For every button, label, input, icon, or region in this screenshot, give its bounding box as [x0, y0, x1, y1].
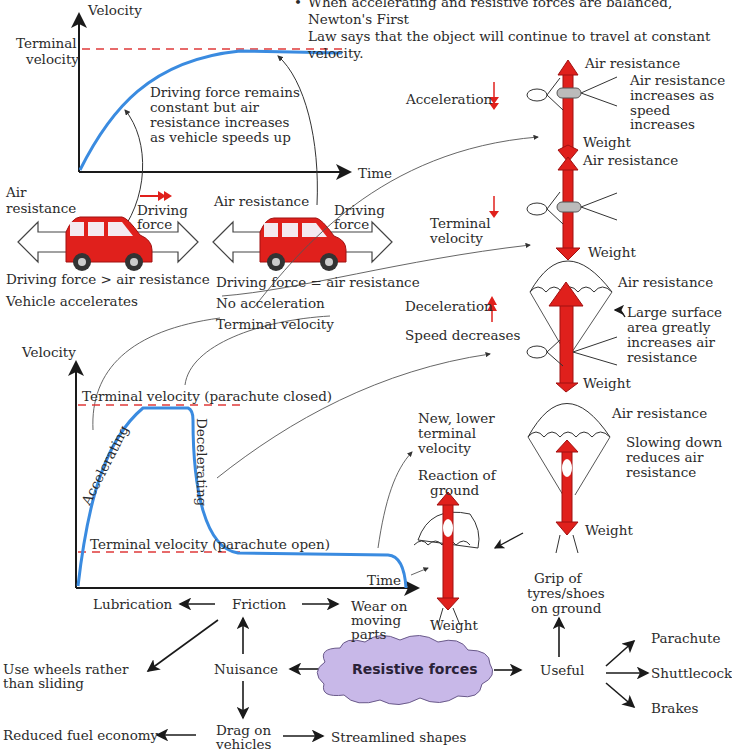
grip-node-line: tyres/shoes	[527, 585, 605, 601]
drag-node-line: vehicles	[216, 736, 271, 751]
reaction-of-ground-2: ground	[430, 482, 479, 498]
stage4-note-line: Slowing down	[626, 434, 722, 450]
stage1-air-resistance: Air resistance	[585, 55, 680, 71]
left-caption-1: Driving force > air resistance	[6, 271, 210, 287]
wheels-node-line: than sliding	[3, 675, 84, 691]
grip-node-line: Grip of	[534, 570, 582, 586]
top-graph-y-label: Velocity	[88, 2, 142, 18]
stage3-note-line: resistance	[627, 349, 697, 365]
stage1-note-line: increases	[630, 116, 695, 132]
terminal-velocity-stage-label-1: Terminal	[430, 215, 491, 231]
skydiver-landed	[414, 492, 479, 625]
stage3-note-line: increases air	[627, 334, 715, 350]
stage4-weight: Weight	[585, 522, 633, 538]
wear-node-line: parts	[351, 626, 387, 642]
right-air-resistance: Air resistance	[214, 193, 309, 209]
resistive-forces-label: Resistive forces	[352, 661, 477, 677]
new-lower-terminal-line: terminal	[418, 425, 476, 441]
stage4-note-line: resistance	[626, 464, 696, 480]
useful-node: Useful	[540, 662, 584, 678]
landed-weight: Weight	[430, 617, 478, 633]
annotation-line: constant but air	[150, 99, 259, 115]
stage3-note-line: area greatly	[627, 319, 710, 335]
left-air-resistance-1: Air	[6, 184, 27, 200]
terminal-velocity-stage-label-2: velocity	[430, 230, 483, 246]
new-lower-terminal-line: New, lower	[418, 410, 495, 426]
right-caption-2: No acceleration	[216, 295, 325, 311]
fuel-economy-node: Reduced fuel economy	[3, 727, 158, 743]
lubrication-node: Lubrication	[93, 596, 172, 612]
bottom-graph-x-label: Time	[367, 572, 401, 588]
parachute-node: Parachute	[651, 630, 720, 646]
shuttlecock-node: Shuttlecock	[651, 665, 732, 681]
grip-node-line: on ground	[531, 600, 601, 616]
deceleration-label: Deceleration	[405, 298, 493, 314]
stage4-note-line: reduces air	[626, 449, 703, 465]
friction-node: Friction	[232, 596, 286, 612]
nuisance-node: Nuisance	[214, 661, 278, 677]
closed-terminal-label: Terminal velocity (parachute closed)	[82, 388, 332, 404]
stage2-air-resistance: Air resistance	[583, 152, 678, 168]
terminal-velocity-label-2: velocity	[26, 51, 79, 67]
newton-first-law-note: When accelerating and resistive forces a…	[308, 0, 728, 62]
reaction-of-ground-1: Reaction of	[418, 467, 496, 483]
left-air-resistance-2: resistance	[6, 200, 76, 216]
stage1-note-line: increases as	[630, 87, 714, 103]
brakes-node: Brakes	[651, 700, 699, 716]
right-caption-1: Driving force = air resistance	[216, 274, 420, 290]
note-line-1: When accelerating and resistive forces a…	[308, 0, 728, 28]
decelerating-label: Decelerating	[194, 418, 210, 506]
stage3-air-resistance: Air resistance	[618, 274, 713, 290]
stage3-note-line: Large surface	[627, 304, 722, 320]
right-caption-3: Terminal velocity	[216, 316, 334, 332]
top-graph-x-label: Time	[358, 165, 392, 181]
speed-decreases-label: Speed decreases	[405, 327, 520, 343]
streamlined-node: Streamlined shapes	[331, 729, 466, 745]
stage2-weight: Weight	[588, 244, 636, 260]
annotation-line: as vehicle speeds up	[150, 129, 291, 145]
acceleration-label: Acceleration	[406, 91, 492, 107]
bottom-graph-y-label: Velocity	[22, 344, 76, 360]
stage4-air-resistance: Air resistance	[612, 405, 707, 421]
new-lower-terminal-line: velocity	[418, 440, 471, 456]
right-driving-force-2: force	[334, 216, 369, 232]
stage3-weight: Weight	[583, 375, 631, 391]
terminal-velocity-label-1: Terminal	[16, 35, 77, 51]
annotation-line: resistance increases	[150, 114, 290, 130]
left-caption-2: Vehicle accelerates	[6, 293, 138, 309]
left-driving-force-2: force	[137, 216, 172, 232]
stage1-weight: Weight	[583, 134, 631, 150]
open-terminal-label: Terminal velocity (parachute open)	[90, 536, 330, 552]
stage1-note-line: Air resistance	[630, 72, 725, 88]
annotation-line: Driving force remains	[150, 84, 300, 100]
